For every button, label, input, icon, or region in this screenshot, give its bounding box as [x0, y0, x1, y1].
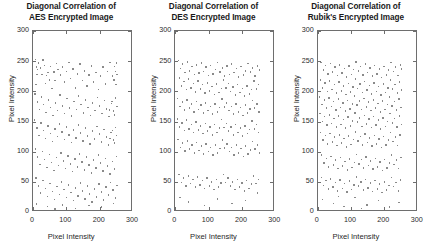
- data-point: [191, 124, 193, 126]
- data-point: [66, 126, 68, 128]
- data-point: [113, 110, 115, 112]
- data-point: [250, 71, 252, 73]
- data-point: [346, 146, 348, 148]
- data-point: [190, 87, 192, 89]
- y-tick: [128, 152, 131, 153]
- data-point: [75, 87, 77, 89]
- data-point: [215, 69, 217, 71]
- data-point: [377, 188, 379, 190]
- data-point: [47, 72, 49, 74]
- data-point: [189, 148, 191, 150]
- data-point: [99, 133, 101, 135]
- data-point: [217, 152, 219, 154]
- data-point: [383, 136, 385, 138]
- data-point: [109, 173, 111, 175]
- data-point: [223, 127, 225, 129]
- panel-title-line2: DES Encrypted Image: [142, 13, 284, 24]
- data-point: [38, 185, 40, 187]
- data-point: [362, 92, 364, 94]
- data-point: [245, 145, 247, 147]
- data-point: [336, 92, 338, 94]
- data-point: [79, 63, 81, 65]
- data-point: [194, 74, 196, 76]
- data-point: [222, 139, 224, 141]
- data-point: [208, 151, 210, 153]
- data-point: [354, 95, 356, 97]
- data-point: [180, 68, 182, 70]
- y-tick: [128, 61, 131, 62]
- data-point: [194, 152, 196, 154]
- data-point: [50, 133, 52, 135]
- data-point: [386, 74, 388, 76]
- data-point: [38, 62, 40, 64]
- data-point: [101, 141, 103, 143]
- data-point: [91, 201, 93, 203]
- data-point: [341, 142, 343, 144]
- data-point: [186, 119, 188, 121]
- data-point: [85, 99, 87, 101]
- data-point: [253, 175, 255, 177]
- data-point: [381, 77, 383, 79]
- data-point: [401, 68, 403, 70]
- data-point: [47, 196, 49, 198]
- data-point: [388, 185, 390, 187]
- data-point: [219, 148, 221, 150]
- data-point: [358, 70, 360, 72]
- data-point: [387, 121, 389, 123]
- x-tick: [175, 207, 176, 210]
- data-point: [210, 147, 212, 149]
- data-point: [254, 75, 256, 77]
- data-point: [397, 92, 399, 94]
- data-point: [364, 81, 366, 83]
- data-point: [382, 100, 384, 102]
- data-point: [377, 166, 379, 168]
- y-tick-label: 150: [144, 117, 171, 124]
- data-point: [364, 133, 366, 135]
- data-point: [370, 160, 372, 162]
- data-point: [45, 188, 47, 190]
- data-point: [98, 154, 100, 156]
- data-point: [258, 111, 260, 113]
- data-point: [84, 169, 86, 171]
- data-point: [196, 142, 198, 144]
- data-point: [70, 78, 72, 80]
- data-point: [115, 127, 117, 129]
- data-point: [177, 139, 179, 141]
- data-point: [63, 160, 65, 162]
- data-point: [330, 63, 332, 65]
- x-axis-label-des: Pixel Intensity: [142, 232, 284, 241]
- data-point: [102, 66, 104, 68]
- data-point: [348, 135, 350, 137]
- data-point: [35, 148, 37, 150]
- data-point: [397, 145, 399, 147]
- data-point: [324, 82, 326, 84]
- data-point: [393, 186, 395, 188]
- y-tick: [318, 182, 321, 183]
- data-point: [76, 109, 78, 111]
- data-point: [342, 102, 344, 104]
- data-point: [179, 197, 181, 199]
- y-tick: [413, 31, 416, 32]
- x-tick-label: 200: [370, 216, 396, 223]
- y-tick-label: 100: [144, 147, 171, 154]
- data-point: [337, 168, 339, 170]
- data-point: [394, 101, 396, 103]
- y-tick-label: 300: [144, 26, 171, 33]
- data-point: [181, 182, 183, 184]
- data-point: [191, 103, 193, 105]
- data-point: [249, 129, 251, 131]
- data-point: [243, 74, 245, 76]
- data-point: [98, 183, 100, 185]
- data-point: [327, 91, 329, 93]
- data-point: [212, 134, 214, 136]
- data-point: [55, 102, 57, 104]
- data-point: [335, 182, 337, 184]
- data-point: [191, 66, 193, 68]
- data-point: [201, 145, 203, 147]
- data-point: [188, 78, 190, 80]
- data-point: [336, 145, 338, 147]
- data-point: [379, 68, 381, 70]
- data-point: [60, 74, 62, 76]
- data-point: [114, 114, 116, 116]
- data-point: [44, 65, 46, 67]
